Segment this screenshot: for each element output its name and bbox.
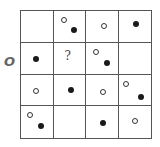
filled-circle-icon [68, 87, 74, 93]
grid-cell-r3-c3 [86, 75, 119, 107]
open-circle-icon [101, 23, 107, 29]
filled-circle-icon [100, 120, 106, 126]
filled-circle-icon [71, 27, 77, 33]
grid-cell-r4-c3 [86, 106, 119, 138]
open-circle-icon [93, 49, 99, 55]
side-option-label: O [4, 54, 15, 69]
grid-cell-r2-c3 [86, 43, 119, 75]
open-circle-icon [132, 118, 138, 124]
grid-cell-r4-c1 [21, 106, 54, 138]
filled-circle-icon [133, 21, 139, 27]
open-circle-icon [27, 112, 33, 118]
open-circle-icon [33, 88, 39, 94]
grid-cell-r1-c1 [21, 11, 54, 43]
grid-cell-r2-c4 [119, 43, 152, 75]
grid-cell-r2-c2[interactable]: ? [54, 43, 87, 75]
grid-cell-r3-c2 [54, 75, 87, 107]
grid-cell-r3-c4 [119, 75, 152, 107]
grid-cell-r1-c2 [54, 11, 87, 43]
open-circle-icon [100, 89, 106, 95]
open-circle-icon [61, 17, 67, 23]
grid-cell-r2-c1 [21, 43, 54, 75]
grid-cell-r1-c4 [119, 11, 152, 43]
grid-cell-r1-c3 [86, 11, 119, 43]
puzzle-grid: ? [20, 10, 152, 139]
filled-circle-icon [33, 56, 39, 62]
filled-circle-icon [104, 60, 110, 66]
grid-cell-r4-c4 [119, 106, 152, 138]
grid-cell-r4-c2 [54, 106, 87, 138]
question-mark: ? [65, 49, 71, 63]
open-circle-icon [123, 81, 129, 87]
filled-circle-icon [138, 94, 144, 100]
filled-circle-icon [38, 123, 44, 129]
grid-cell-r3-c1 [21, 75, 54, 107]
